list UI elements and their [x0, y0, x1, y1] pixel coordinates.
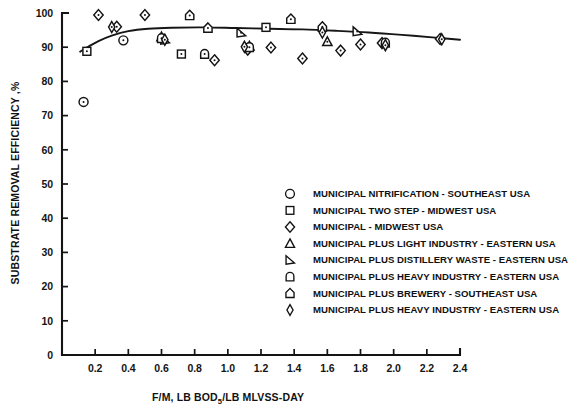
y-axis-tick-label: 100 [36, 7, 53, 19]
data-point [94, 10, 103, 21]
x-axis-tick-label: 2.0 [387, 362, 402, 374]
marker-center-dot [111, 26, 113, 28]
y-axis-tick-label: 20 [42, 280, 54, 292]
legend-label: MUNICIPAL TWO STEP - MIDWEST USA [313, 205, 496, 216]
data-point [177, 50, 185, 58]
y-axis-tick-labels: 0102030405060708090100 [36, 7, 53, 361]
data-point [204, 23, 212, 32]
legend-label: MUNICIPAL PLUS BREWERY - SOUTHEAST USA [313, 288, 537, 299]
legend-marker-house [286, 288, 294, 297]
legend-item[interactable]: MUNICIPAL PLUS HEAVY INDUSTRY - EASTERN … [286, 271, 559, 282]
scatter-plot-svg: 0102030405060708090100 0.20.40.60.81.01.… [0, 0, 583, 415]
legend-label: MUNICIPAL - MIDWEST USA [313, 221, 443, 232]
data-point [186, 10, 194, 19]
marker-center-dot [270, 47, 272, 49]
data-point [336, 45, 345, 56]
x-axis-tick-label: 1.4 [287, 362, 302, 374]
legend-marker-right-triangle [286, 256, 294, 265]
x-axis-tick-label: 0.2 [88, 362, 103, 374]
marker-center-dot [240, 32, 242, 34]
marker-center-dot [248, 46, 250, 48]
legend-label: MUNICIPAL PLUS DISTILLERY WASTE - EASTER… [313, 254, 568, 265]
marker-diamond [285, 222, 294, 233]
svg-text:F/M, LB BOD5/LB MLVSS-DAY: F/M, LB BOD5/LB MLVSS-DAY [152, 391, 304, 406]
legend-marker-triangle [285, 239, 294, 248]
marker-center-dot [97, 14, 99, 16]
marker-center-dot [144, 14, 146, 16]
y-axis-tick-label: 40 [42, 212, 54, 224]
marker-center-dot [243, 46, 245, 48]
legend-item[interactable]: MUNICIPAL PLUS DISTILLERY WASTE - EASTER… [286, 254, 568, 265]
marker-round-top-square [286, 272, 294, 281]
data-point [237, 28, 246, 37]
marker-center-dot [441, 38, 443, 40]
legend-marker-round-top-square [286, 272, 294, 281]
marker-circle [286, 189, 295, 198]
y-axis-title: SUBSTRATE REMOVAL EFFICIENCY ,% [9, 81, 21, 284]
legend-item[interactable]: MUNICIPAL PLUS HEAVY INDUSTRY - EASTERN … [287, 304, 559, 315]
x-axis-tick-label: 0.4 [121, 362, 136, 374]
y-axis-tick-label: 30 [42, 246, 54, 258]
legend-item[interactable]: MUNICIPAL NITRIFICATION - SOUTHEAST USA [286, 188, 531, 199]
x-axis-tick-label: 0.6 [154, 362, 169, 374]
legend-item[interactable]: MUNICIPAL PLUS LIGHT INDUSTRY - EASTERN … [285, 238, 555, 249]
series-0 [79, 36, 128, 107]
marker-center-dot [360, 43, 362, 45]
data-point [109, 22, 115, 33]
y-axis-tick-label: 60 [42, 144, 54, 156]
data-point-layer [79, 10, 445, 107]
x-axis-tick-label: 1.2 [254, 362, 269, 374]
marker-center-dot [301, 57, 303, 59]
legend-item[interactable]: MUNICIPAL TWO STEP - MIDWEST USA [286, 205, 496, 216]
x-axis-title: F/M, LB BOD5/LB MLVSS-DAY [152, 391, 304, 406]
x-axis-tick-label: 1.0 [221, 362, 236, 374]
legend-label: MUNICIPAL PLUS LIGHT INDUSTRY - EASTERN … [313, 238, 556, 249]
marker-center-dot [321, 31, 323, 33]
marker-center-dot [290, 18, 292, 20]
marker-house [286, 288, 294, 297]
data-point [298, 53, 307, 64]
legend-marker-square [286, 207, 294, 215]
marker-center-dot [164, 39, 166, 41]
chart-legend: MUNICIPAL NITRIFICATION - SOUTHEAST USAM… [285, 188, 568, 315]
marker-right-triangle [286, 256, 294, 265]
legend-label: MUNICIPAL NITRIFICATION - SOUTHEAST USA [313, 188, 530, 199]
marker-narrow-diamond [287, 305, 293, 316]
chart-figure: 0102030405060708090100 0.20.40.60.81.01.… [0, 0, 583, 415]
legend-marker-circle [286, 189, 295, 198]
marker-center-dot [83, 101, 85, 103]
data-point [140, 10, 149, 21]
legend-item[interactable]: MUNICIPAL - MIDWEST USA [285, 221, 443, 232]
x-axis-tick-label: 1.8 [353, 362, 368, 374]
legend-marker-diamond [285, 222, 294, 233]
x-axis-tick-label: 2.4 [453, 362, 468, 374]
marker-center-dot [86, 50, 88, 52]
x-axis-title-main: F/M, LB BOD [152, 391, 218, 403]
legend-label: MUNICIPAL PLUS HEAVY INDUSTRY - EASTERN … [313, 271, 559, 282]
x-axis-tick-labels: 0.20.40.60.81.01.21.41.61.82.02.22.4 [88, 362, 467, 374]
y-axis-tick-label: 90 [42, 41, 54, 53]
data-point [79, 97, 88, 106]
legend-item[interactable]: MUNICIPAL PLUS BREWERY - SOUTHEAST USA [286, 288, 537, 299]
x-axis-tick-label: 2.2 [420, 362, 435, 374]
data-point [262, 23, 270, 31]
data-point [210, 55, 219, 66]
marker-center-dot [204, 53, 206, 55]
data-point [323, 37, 332, 46]
marker-center-dot [214, 59, 216, 61]
data-point [83, 47, 91, 55]
x-axis-tick-label: 1.6 [320, 362, 335, 374]
data-point [356, 39, 365, 50]
y-axis-tick-label: 50 [42, 178, 54, 190]
marker-center-dot [265, 26, 267, 28]
x-axis-tick-label: 0.8 [188, 362, 203, 374]
marker-center-dot [326, 41, 328, 43]
legend-label: MUNICIPAL PLUS HEAVY INDUSTRY - EASTERN … [313, 304, 559, 315]
data-point [266, 42, 275, 53]
data-point [287, 14, 295, 23]
marker-center-dot [116, 26, 118, 28]
marker-square [286, 207, 294, 215]
data-point [201, 50, 209, 59]
y-axis-tick-label: 10 [42, 315, 54, 327]
marker-triangle [285, 239, 294, 248]
